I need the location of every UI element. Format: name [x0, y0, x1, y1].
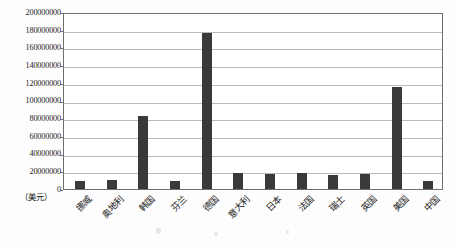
scan-artifact: [286, 230, 289, 234]
y-axis: 2000000001800000001600000001400000001200…: [0, 0, 61, 249]
x-tick-label: 法国: [296, 194, 316, 214]
gridline: [64, 156, 442, 157]
gridline: [64, 85, 442, 86]
y-tick-label: 180000000: [0, 27, 61, 35]
x-tick-label: 意大利: [226, 194, 252, 220]
bar: [233, 173, 243, 189]
bar: [297, 173, 307, 189]
gridline: [64, 32, 442, 33]
scan-artifact: [214, 232, 218, 236]
bar: [423, 181, 433, 189]
gridline: [64, 138, 442, 139]
x-tick-label: 挪威: [74, 194, 94, 214]
x-tick-label: 芬兰: [169, 194, 189, 214]
scan-artifact: [156, 228, 161, 234]
y-tick-label: 120000000: [0, 80, 61, 88]
gridline: [64, 173, 442, 174]
bar: [265, 174, 275, 189]
bar: [138, 116, 148, 189]
y-tick-label: 200000000: [0, 9, 61, 17]
x-tick-label: 韩国: [137, 194, 157, 214]
x-tick-label: 美国: [391, 194, 411, 214]
bar: [170, 181, 180, 189]
bar: [202, 33, 212, 189]
y-tick-label: 160000000: [0, 44, 61, 52]
y-tick-label: 40000000: [0, 150, 61, 158]
y-tick-label: 100000000: [0, 97, 61, 105]
gridline: [64, 49, 442, 50]
x-tick-label: 德国: [201, 194, 221, 214]
chart-page: 2000000001800000001600000001400000001200…: [0, 0, 458, 249]
x-tick-label: 瑞士: [327, 194, 347, 214]
y-tick-label: 140000000: [0, 62, 61, 70]
x-tick-label: 英国: [359, 194, 379, 214]
y-tick-label: 80000000: [0, 115, 61, 123]
x-tick-label: 日本: [264, 194, 284, 214]
bar: [360, 174, 370, 189]
gridline: [64, 103, 442, 104]
y-tick-label: 20000000: [0, 168, 61, 176]
gridline: [64, 67, 442, 68]
x-tick-label: 奥地利: [99, 194, 125, 220]
gridline: [64, 120, 442, 121]
bar: [328, 175, 338, 189]
x-tick-label: 中国: [422, 194, 442, 214]
x-axis: 挪威奥地利韩国芬兰德国意大利日本法国瑞士英国美国中国: [63, 190, 443, 249]
plot-area: [63, 13, 443, 190]
y-axis-unit-label: （美元）: [10, 193, 62, 202]
bar: [75, 181, 85, 189]
bar: [107, 180, 117, 189]
y-tick-label: 60000000: [0, 133, 61, 141]
bar: [392, 87, 402, 189]
